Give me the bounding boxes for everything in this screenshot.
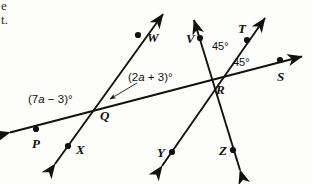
expr-suffix: + 3)° — [145, 71, 173, 83]
point-dot-P — [33, 126, 39, 132]
angle-label-45-upper: 45° — [212, 41, 229, 52]
point-dot-Z — [230, 147, 236, 153]
angle-label-45-lower: 45° — [233, 57, 250, 68]
point-dot-X — [65, 143, 71, 149]
point-label-R: R — [216, 83, 225, 96]
point-dot-Y — [169, 149, 175, 155]
point-label-T: T — [238, 22, 246, 35]
angle-label-7a-minus-3: (7a − 3)° — [28, 94, 73, 106]
geometry-figure — [0, 0, 312, 184]
point-dot-S — [277, 57, 283, 63]
expr-prefix: (7 — [28, 93, 38, 105]
point-label-V: V — [186, 32, 195, 45]
angle-label-2a-plus-3: (2a + 3)° — [128, 72, 173, 84]
point-label-P: P — [32, 137, 40, 150]
expr-prefix: (2 — [128, 71, 138, 83]
point-label-Z: Z — [219, 144, 227, 157]
diagram-canvas: e t. — [0, 0, 312, 184]
expr-suffix: − 3)° — [45, 93, 73, 105]
point-dot-V — [197, 35, 203, 41]
point-dot-W — [135, 32, 141, 38]
point-label-X: X — [76, 143, 85, 156]
leader-arrow-to-angle-q — [110, 83, 137, 99]
point-label-W: W — [147, 31, 159, 44]
point-label-Q: Q — [100, 109, 109, 122]
point-dot-T — [244, 37, 250, 43]
point-label-S: S — [277, 70, 284, 83]
point-label-Y: Y — [157, 146, 165, 159]
